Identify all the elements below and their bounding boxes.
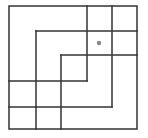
nested-squares-diagram [0,0,148,138]
outer-square [9,6,137,129]
marker-dot [97,41,101,45]
grid-lines [9,6,137,129]
